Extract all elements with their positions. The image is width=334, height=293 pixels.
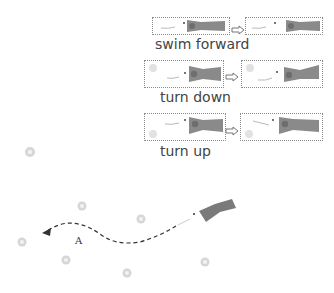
swim-path [46, 223, 176, 243]
fish-icon [199, 199, 236, 222]
swim-path-scene [0, 0, 334, 293]
food-pellet-icon [18, 147, 210, 278]
path-arrowhead-icon [42, 228, 51, 236]
path-label-a: A [75, 235, 82, 246]
